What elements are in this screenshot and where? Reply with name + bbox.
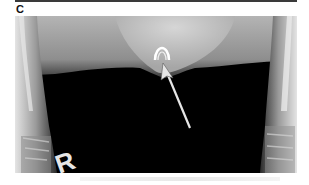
top-image-edge [15, 0, 297, 2]
panel-label: C [16, 3, 24, 15]
radiograph-image: R [15, 16, 297, 173]
caption-strip [80, 177, 280, 181]
